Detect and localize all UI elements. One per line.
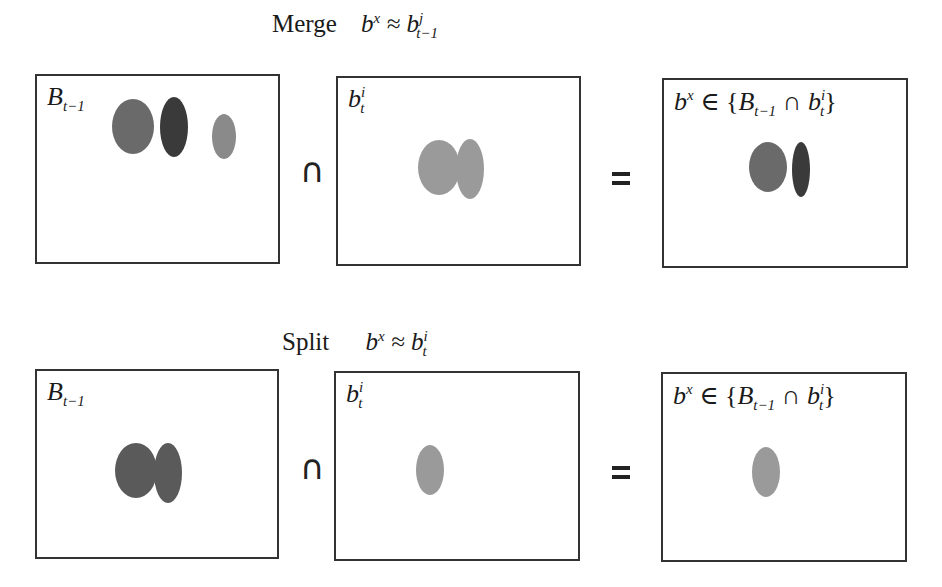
blob-ellipse xyxy=(160,97,188,157)
merge-panel-previous-blobs: Bt−1 xyxy=(35,74,280,264)
split-title: Split bx ≈ bit xyxy=(282,328,427,356)
split-title-word: Split xyxy=(282,328,329,355)
blob-ellipse xyxy=(749,142,787,192)
intersect-operator: ∩ xyxy=(300,447,325,487)
blob-ellipse xyxy=(115,443,157,498)
blob-ellipse xyxy=(416,445,444,495)
split-panel-current-blobs: bit xyxy=(334,371,580,561)
blob-ellipse xyxy=(154,443,182,503)
merge-formula: bx ≈ bjt−1 xyxy=(361,10,438,37)
blob-ellipse xyxy=(112,99,154,154)
blob-ellipse xyxy=(212,114,236,159)
blob-ellipse xyxy=(792,142,810,197)
panel-label: bit xyxy=(346,379,362,409)
panel-label: Bt−1 xyxy=(47,377,85,407)
panel-label: bx ∈ {Bt−1 ∩ bit} xyxy=(673,380,836,411)
blob-ellipse xyxy=(418,140,460,195)
panel-label: bx ∈ {Bt−1 ∩ bit} xyxy=(674,86,837,117)
blob-ellipse xyxy=(752,447,780,497)
blob-ellipse xyxy=(456,139,484,199)
merge-title: Merge bx ≈ bjt−1 xyxy=(272,10,438,38)
split-panel-result: bx ∈ {Bt−1 ∩ bit} xyxy=(661,372,907,562)
intersect-operator: ∩ xyxy=(300,150,325,190)
panel-label: bit xyxy=(348,84,364,114)
panel-label: Bt−1 xyxy=(47,82,85,112)
split-formula: bx ≈ bit xyxy=(366,328,427,355)
merge-title-word: Merge xyxy=(272,10,337,37)
